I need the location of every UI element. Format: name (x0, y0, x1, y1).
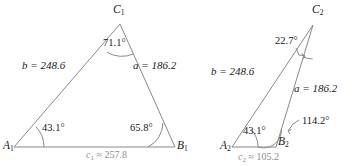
vertex-label-b2: B2 (278, 136, 289, 148)
leader-line-b2 (288, 120, 299, 131)
diagram-canvas: A1 B1 C1 43.1° 65.8° 71.1° b = 248.6 a =… (0, 0, 361, 166)
angle-label-b2: 114.2° (302, 116, 329, 127)
side-label-a2: a = 186.2 (294, 83, 337, 94)
angle-label-c2: 22.7° (275, 36, 298, 47)
angle-label-a2: 43.1° (243, 126, 266, 137)
side-label-c2: c2 ≈ 105.2 (238, 152, 279, 164)
vertex-label-c2: C2 (312, 4, 323, 16)
vertex-label-a2: A2 (220, 140, 231, 152)
side-label-b2: b = 248.6 (211, 66, 254, 77)
